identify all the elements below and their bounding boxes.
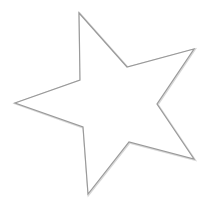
drawing-canvas: Star [0,0,208,211]
star-graphic [0,0,208,211]
